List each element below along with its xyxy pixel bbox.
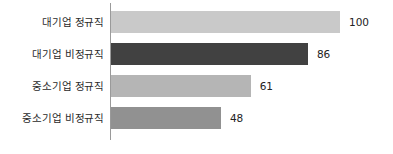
bar-value-1: 86 bbox=[317, 43, 330, 65]
category-label-2: 중소기업 정규직 bbox=[0, 75, 104, 97]
bar-track-2: 61 bbox=[111, 75, 273, 97]
bar-0 bbox=[111, 11, 340, 33]
bar-track-0: 100 bbox=[111, 11, 369, 33]
bar-track-1: 86 bbox=[111, 43, 330, 65]
bar-row: 중소기업 비정규직 48 bbox=[0, 107, 393, 129]
category-label-3: 중소기업 비정규직 bbox=[0, 107, 104, 129]
bar-value-0: 100 bbox=[349, 11, 369, 33]
bar-row: 중소기업 정규직 61 bbox=[0, 75, 393, 97]
bar-2 bbox=[111, 75, 251, 97]
bar-track-3: 48 bbox=[111, 107, 243, 129]
bar-3 bbox=[111, 107, 221, 129]
bar-1 bbox=[111, 43, 308, 65]
horizontal-bar-chart: 대기업 정규직 100 대기업 비정규직 86 중소기업 정규직 61 중소기업… bbox=[0, 0, 393, 154]
bar-value-3: 48 bbox=[230, 107, 243, 129]
category-label-1: 대기업 비정규직 bbox=[0, 43, 104, 65]
category-label-0: 대기업 정규직 bbox=[0, 11, 104, 33]
bar-row: 대기업 비정규직 86 bbox=[0, 43, 393, 65]
bar-row: 대기업 정규직 100 bbox=[0, 11, 393, 33]
bar-value-2: 61 bbox=[260, 75, 273, 97]
